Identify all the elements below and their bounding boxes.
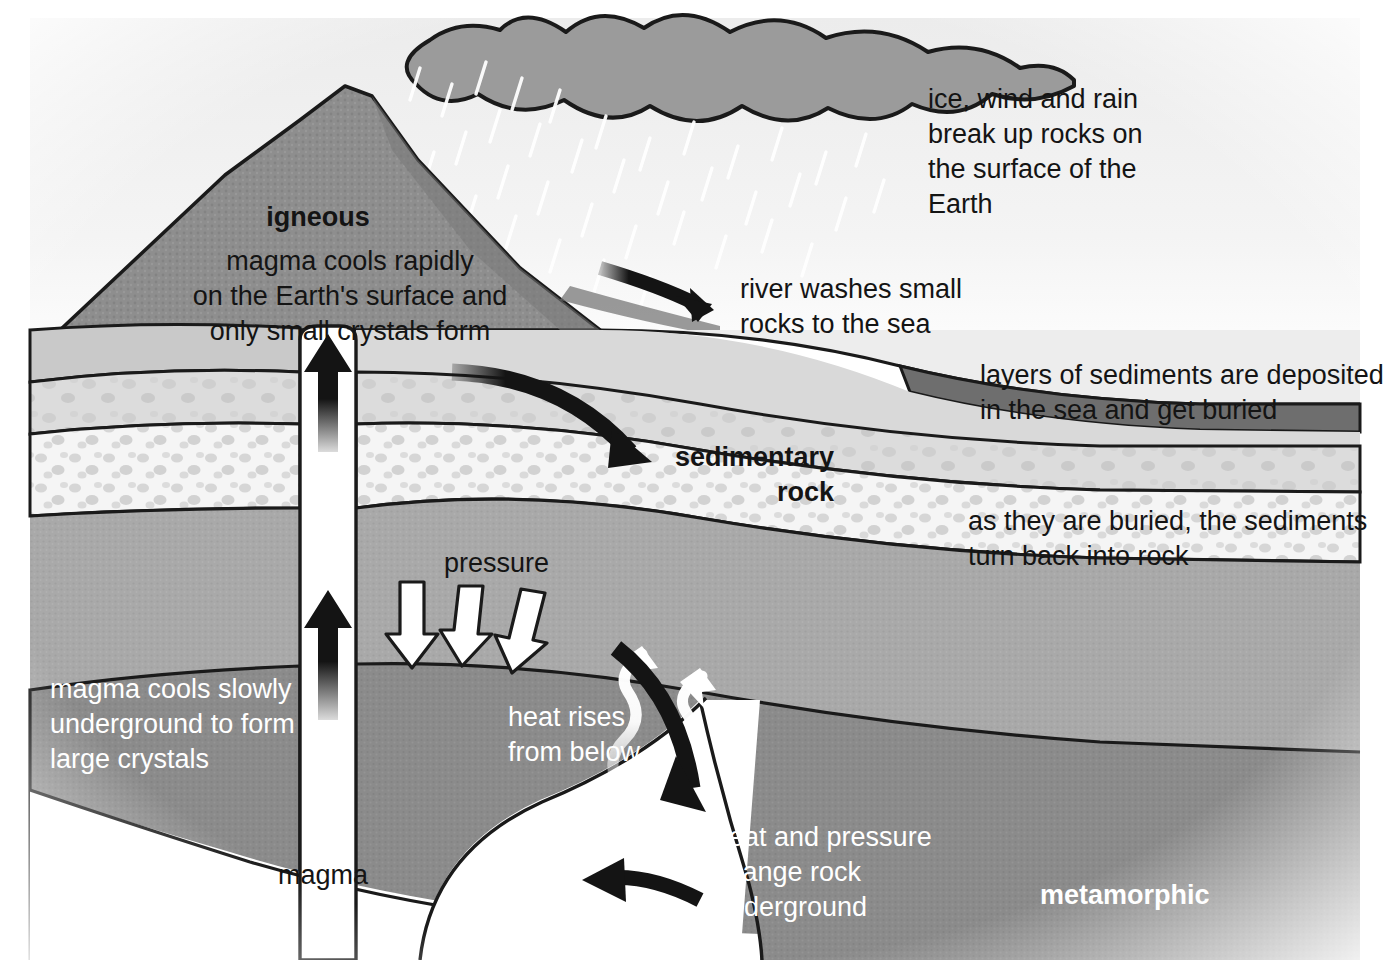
heat-rises-label: heat rises from below [508,700,718,770]
weathering-description: ice, wind and rain break up rocks on the… [928,82,1288,222]
magma-label: magma [278,858,438,893]
igneous-title: igneous [236,200,400,235]
rock-cycle-diagram: igneous magma cools rapidly on the Earth… [0,0,1386,960]
metamorphic-title: metamorphic [1040,878,1280,913]
pressure-label: pressure [444,546,604,581]
igneous-description: magma cools rapidly on the Earth's surfa… [180,244,520,349]
river-description: river washes small rocks to the sea [740,272,1040,342]
surface-layer-1 [30,324,300,516]
intrusive-description: magma cools slowly underground to form l… [50,672,350,777]
lithification-description: as they are buried, the sediments turn b… [968,504,1378,574]
metamorphism-description: heat and pressure change rock undergroun… [714,820,994,925]
pressure-arrows [386,582,547,673]
deposition-description: layers of sediments are deposited in the… [980,358,1380,428]
sedimentary-title: sedimentary rock [600,440,834,510]
